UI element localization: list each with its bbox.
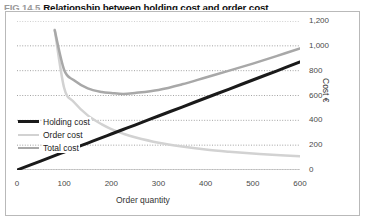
y-tick-label-0: 0 [309, 165, 313, 174]
x-tick-label-300: 300 [151, 179, 167, 188]
axis-label-layer: 02004006008001,0001,20001002003004005006… [0, 0, 366, 222]
legend-label-total-cost: Total cost [43, 143, 80, 153]
legend-item-holding-cost: Holding cost [18, 115, 118, 128]
y-tick-label-800: 800 [309, 66, 322, 75]
y-axis-title: Cost € [321, 78, 331, 103]
x-tick-label-200: 200 [103, 179, 119, 188]
x-tick-label-0: 0 [9, 179, 25, 188]
legend-swatch-holding-cost [18, 120, 39, 123]
x-axis-title: Order quantity [116, 195, 170, 205]
y-tick-label-1000: 1,000 [309, 41, 329, 50]
legend-label-holding-cost: Holding cost [43, 117, 91, 127]
x-tick-label-600: 600 [292, 179, 308, 188]
y-tick-label-1200: 1,200 [309, 16, 329, 25]
y-tick-label-400: 400 [309, 115, 322, 124]
y-tick-label-200: 200 [309, 140, 322, 149]
figure-root: FIG 14.5Relationship between holding cos… [0, 0, 366, 222]
x-tick-label-100: 100 [56, 179, 72, 188]
legend-swatch-order-cost [18, 134, 39, 136]
x-tick-label-500: 500 [245, 179, 261, 188]
chart-legend: Holding cost Order cost Total cost [18, 115, 118, 154]
legend-swatch-total-cost [18, 147, 39, 149]
legend-item-order-cost: Order cost [18, 128, 118, 141]
x-tick-label-400: 400 [198, 179, 214, 188]
legend-item-total-cost: Total cost [18, 141, 118, 154]
legend-label-order-cost: Order cost [43, 130, 84, 140]
